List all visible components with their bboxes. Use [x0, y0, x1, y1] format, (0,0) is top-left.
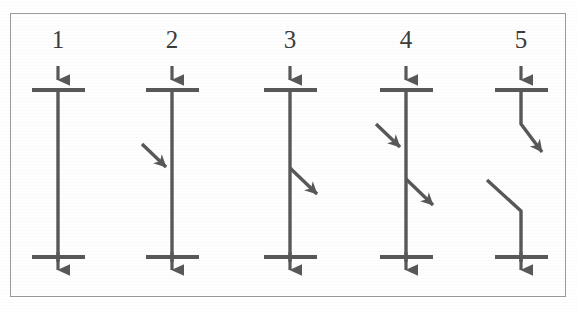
panel-3-outgoing-arrow [290, 168, 317, 194]
panel-1: 1 [32, 26, 85, 270]
panel-4-outgoing-arrow [406, 179, 433, 205]
panel-4-label: 4 [400, 26, 413, 53]
panel-2: 2 [142, 26, 199, 270]
figure-diagram-canvas: 1 2 3 4 [0, 0, 578, 312]
panel-5: 5 [487, 26, 548, 270]
panel-2-incoming-arrow [142, 144, 166, 167]
figure-root: 1 2 3 4 [0, 0, 578, 312]
panel-3-label: 3 [284, 26, 297, 53]
panel-3: 3 [264, 26, 317, 270]
panel-1-label: 1 [52, 26, 65, 53]
panel-4-incoming-arrow [376, 124, 400, 147]
panel-5-label: 5 [515, 26, 528, 53]
panel-2-label: 2 [166, 26, 179, 53]
panel-5-upper-deflected-branch [521, 88, 542, 152]
panel-4: 4 [376, 26, 433, 270]
panel-5-lower-incoming-branch [487, 180, 521, 262]
